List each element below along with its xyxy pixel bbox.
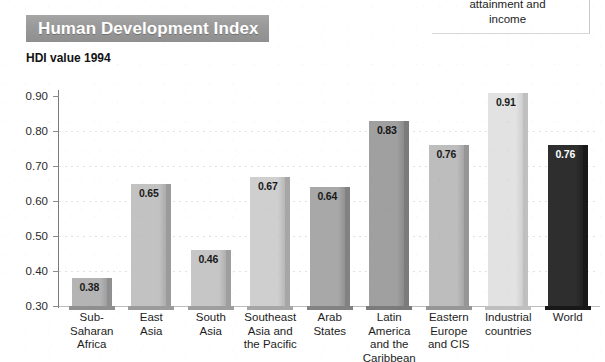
category-label-sub-saharan-africa: Sub-SaharanAfrica <box>59 311 125 352</box>
bar-world[interactable]: 0.76 <box>548 145 588 306</box>
category-label-line: and CIS <box>416 338 482 352</box>
category-label-industrial-countries: Industrialcountries <box>476 311 542 338</box>
bar-shadow-edge <box>464 145 469 306</box>
category-label-world: World <box>535 311 601 325</box>
y-axis-tick-mark <box>53 271 59 272</box>
category-label-south-asia: SouthAsia <box>178 311 244 338</box>
bar-value-label: 0.76 <box>548 148 583 160</box>
category-label-line: Southeast <box>238 311 304 325</box>
category-label-line: Latin <box>357 311 423 325</box>
bar-plinth <box>307 306 353 310</box>
bar-southeast-asia-and-the-pacific[interactable]: 0.67 <box>250 177 290 307</box>
bar-value-label: 0.76 <box>429 148 464 160</box>
bar-chart-plot: 0.900.800.700.600.500.400.30 0.380.650.4… <box>0 0 605 362</box>
bar-body <box>429 145 469 306</box>
bar-value-label: 0.64 <box>310 190 345 202</box>
bar-body <box>548 145 588 306</box>
bar-value-label: 0.46 <box>191 253 226 265</box>
y-axis-tick-label: 0.80 <box>0 125 48 137</box>
category-label-line: countries <box>476 325 542 339</box>
bar-shadow-edge <box>345 187 350 306</box>
category-label-line: States <box>297 325 363 339</box>
category-label-line: Asia <box>119 325 185 339</box>
bar-shadow-edge <box>285 177 290 307</box>
bar-value-label: 0.67 <box>250 180 285 192</box>
category-label-line: Europe <box>416 325 482 339</box>
bar-plinth <box>128 306 174 310</box>
y-axis-line <box>58 90 59 308</box>
bar-body <box>310 187 350 306</box>
bar-arab-states[interactable]: 0.64 <box>310 187 350 306</box>
category-label-line: Arab <box>297 311 363 325</box>
bar-plinth <box>247 306 293 310</box>
bar-eastern-europe-and-cis[interactable]: 0.76 <box>429 145 469 306</box>
y-axis-tick-mark <box>53 306 59 307</box>
y-axis-tick-label: 0.50 <box>0 230 48 242</box>
bar-sub-saharan-africa[interactable]: 0.38 <box>72 278 112 306</box>
category-label-latin-america-and-the-caribbean: LatinAmericaand theCaribbean <box>357 311 423 362</box>
category-label-line: Saharan <box>59 325 125 339</box>
bar-east-asia[interactable]: 0.65 <box>131 184 171 307</box>
bar-plinth <box>426 306 472 310</box>
y-axis-tick-mark <box>53 96 59 97</box>
bar-shadow-edge <box>583 145 588 306</box>
bar-shadow-edge <box>404 121 409 307</box>
bar-body <box>369 121 409 307</box>
category-label-line: the Pacific <box>238 338 304 352</box>
bar-shadow-edge <box>226 250 231 306</box>
category-label-line: Asia and <box>238 325 304 339</box>
bar-shadow-edge <box>523 93 528 307</box>
bar-shadow-edge <box>107 278 112 306</box>
y-axis-tick-label: 0.60 <box>0 195 48 207</box>
category-label-line: East <box>119 311 185 325</box>
bar-body <box>131 184 171 307</box>
category-label-eastern-europe-and-cis: EasternEuropeand CIS <box>416 311 482 352</box>
category-label-line: Industrial <box>476 311 542 325</box>
bar-value-label: 0.91 <box>488 96 523 108</box>
bar-body <box>250 177 290 307</box>
bar-plinth <box>69 306 115 310</box>
category-label-line: Eastern <box>416 311 482 325</box>
y-axis-tick-label: 0.90 <box>0 90 48 102</box>
y-axis-tick-label: 0.40 <box>0 265 48 277</box>
category-label-line: Africa <box>59 338 125 352</box>
bar-value-label: 0.83 <box>369 124 404 136</box>
category-label-line: South <box>178 311 244 325</box>
y-axis-tick-label: 0.70 <box>0 160 48 172</box>
category-label-line: World <box>535 311 601 325</box>
bar-shadow-edge <box>166 184 171 307</box>
bar-plinth <box>366 306 412 310</box>
bar-plinth <box>188 306 234 310</box>
bar-value-label: 0.38 <box>72 281 107 293</box>
bar-latin-america-and-the-caribbean[interactable]: 0.83 <box>369 121 409 307</box>
category-label-east-asia: EastAsia <box>119 311 185 338</box>
bar-plinth <box>485 306 531 310</box>
category-label-line: and the <box>357 338 423 352</box>
category-label-line: Caribbean <box>357 352 423 362</box>
y-axis-tick-mark <box>53 236 59 237</box>
bar-body <box>488 93 528 307</box>
category-label-line: America <box>357 325 423 339</box>
y-axis-tick-label: 0.30 <box>0 300 48 312</box>
category-label-line: Sub- <box>59 311 125 325</box>
bar-value-label: 0.65 <box>131 187 166 199</box>
category-label-arab-states: ArabStates <box>297 311 363 338</box>
y-axis-tick-mark <box>53 201 59 202</box>
bar-south-asia[interactable]: 0.46 <box>191 250 231 306</box>
bar-plinth <box>545 306 591 310</box>
bar-industrial-countries[interactable]: 0.91 <box>488 93 528 307</box>
y-axis-tick-mark <box>53 166 59 167</box>
category-label-southeast-asia-and-the-pacific: SoutheastAsia andthe Pacific <box>238 311 304 352</box>
category-label-line: Asia <box>178 325 244 339</box>
y-axis-tick-mark <box>53 131 59 132</box>
